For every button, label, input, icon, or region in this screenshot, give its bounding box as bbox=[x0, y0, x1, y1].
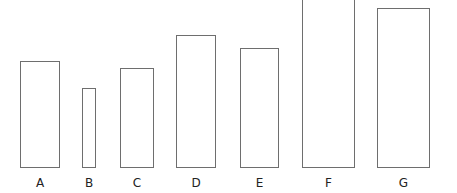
label-a: A bbox=[20, 176, 60, 190]
label-f: F bbox=[309, 176, 349, 190]
rectangle-f bbox=[302, 0, 355, 168]
rectangle-e bbox=[240, 48, 279, 168]
label-g: G bbox=[384, 176, 424, 190]
rectangle-d bbox=[176, 35, 216, 168]
label-e: E bbox=[240, 176, 280, 190]
label-d: D bbox=[176, 176, 216, 190]
rectangle-b bbox=[82, 88, 96, 168]
label-b: B bbox=[69, 176, 109, 190]
rectangle-c bbox=[120, 68, 154, 168]
label-c: C bbox=[117, 176, 157, 190]
rectangle-g bbox=[377, 8, 430, 168]
rectangles-diagram: A B C D E F G bbox=[0, 0, 457, 193]
rectangle-a bbox=[20, 61, 60, 168]
